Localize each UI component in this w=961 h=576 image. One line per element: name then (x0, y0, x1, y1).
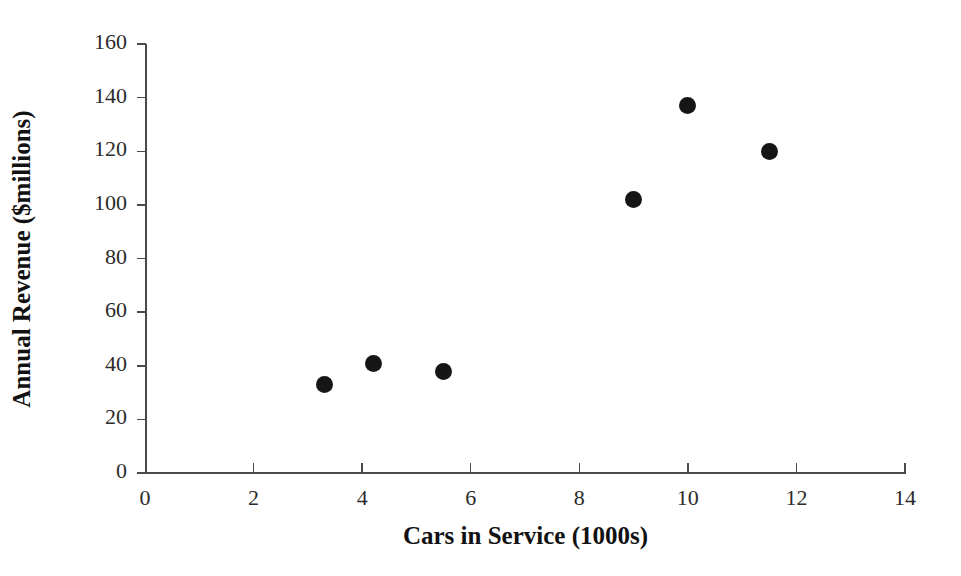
x-axis-line (145, 472, 906, 474)
x-axis-tick (470, 463, 472, 473)
x-axis-tick (904, 463, 906, 473)
y-axis-tick (137, 311, 146, 313)
x-axis-tick-label: 2 (224, 485, 284, 511)
y-axis-tick (137, 365, 146, 367)
y-axis-title: Annual Revenue ($millions) (8, 110, 36, 407)
data-point (761, 143, 778, 160)
y-axis-tick (137, 419, 146, 421)
x-axis-tick-label: 6 (441, 485, 501, 511)
x-axis-tick (579, 463, 581, 473)
y-axis-tick-label: 60 (67, 297, 127, 323)
chart-page: 020406080100120140160 02468101214 Annual… (0, 0, 961, 576)
x-axis-tick-label: 12 (766, 485, 826, 511)
x-axis-tick-label: 8 (549, 485, 609, 511)
x-axis-tick-label: 14 (875, 485, 935, 511)
x-axis-tick (796, 463, 798, 473)
data-point (625, 191, 642, 208)
y-axis-tick-label: 0 (67, 458, 127, 484)
y-axis-tick-label: 140 (67, 83, 127, 109)
x-axis-tick (687, 463, 689, 473)
y-axis-tick-label: 120 (67, 136, 127, 162)
y-axis-tick (137, 43, 146, 45)
y-axis-tick-label: 20 (67, 404, 127, 430)
y-axis-tick (137, 204, 146, 206)
y-axis-tick-label: 40 (67, 351, 127, 377)
y-axis-tick (137, 472, 146, 474)
data-point (316, 376, 333, 393)
y-axis-tick (137, 97, 146, 99)
x-axis-tick-label: 0 (115, 485, 175, 511)
y-axis-tick-label: 80 (67, 244, 127, 270)
y-axis-tick-label: 100 (67, 190, 127, 216)
x-axis-tick-label: 4 (332, 485, 392, 511)
x-axis-tick (253, 463, 255, 473)
y-axis-tick (137, 151, 146, 153)
y-axis-tick-label: 160 (67, 29, 127, 55)
scatter-plot-area: 020406080100120140160 02468101214 Annual… (0, 0, 961, 576)
y-axis-title-container: Annual Revenue ($millions) (0, 44, 44, 473)
x-axis-tick-label: 10 (658, 485, 718, 511)
y-axis-tick (137, 258, 146, 260)
data-point (679, 97, 696, 114)
x-axis-title: Cars in Service (1000s) (145, 522, 906, 550)
data-point (435, 363, 452, 380)
data-point (365, 355, 382, 372)
x-axis-tick (361, 463, 363, 473)
